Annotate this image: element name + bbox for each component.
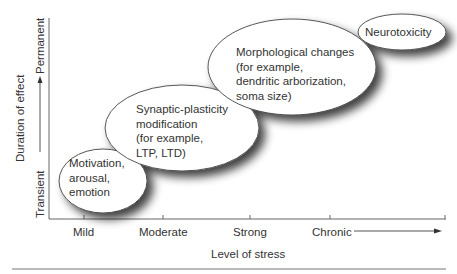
bubble-morphological-text: Morphological changes (for example, dend… xyxy=(236,45,354,103)
x-tick-mild: Mild xyxy=(73,225,94,239)
y-high-label: Permanent xyxy=(34,18,46,74)
bubble-synaptic-text: Synaptic-plasticity modification (for ex… xyxy=(136,102,228,160)
bubble-neurotoxicity-text: Neurotoxicity xyxy=(365,25,431,39)
stress-effects-diagram: Motivation, arousal, emotion Synaptic-pl… xyxy=(0,0,457,274)
y-axis-title: Duration of effect xyxy=(14,75,26,162)
x-axis-ticks xyxy=(84,215,445,219)
x-tick-chronic: Chronic xyxy=(312,225,352,239)
x-axis-title: Level of stress xyxy=(211,247,285,261)
x-tick-strong: Strong xyxy=(233,225,267,239)
x-tick-moderate: Moderate xyxy=(139,225,188,239)
diagram-graphics xyxy=(0,0,457,274)
chronic-arrow-head xyxy=(434,229,442,234)
duration-arrow-head xyxy=(38,76,43,83)
bubble-motivation-text: Motivation, arousal, emotion xyxy=(69,156,125,200)
y-low-label: Transient xyxy=(34,170,46,218)
